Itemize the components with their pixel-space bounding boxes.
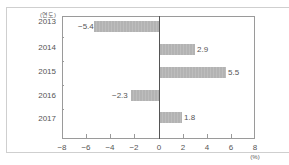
x-label: 0 xyxy=(149,143,169,152)
y-label-2014: 2014 xyxy=(16,43,56,52)
y-label-2017: 2017 xyxy=(16,114,56,123)
bar-2014 xyxy=(160,44,195,55)
value-label-2016: −2.3 xyxy=(112,90,128,101)
y-label-2013: 2013 xyxy=(16,17,56,26)
value-label-2014: 2.9 xyxy=(197,44,208,55)
x-axis-unit: (%) xyxy=(245,154,265,160)
value-label-2013: −5.4 xyxy=(78,21,94,32)
x-label: −8 xyxy=(52,143,72,152)
value-label-2015: 5.5 xyxy=(228,67,239,78)
x-tick xyxy=(86,134,87,138)
y-tick xyxy=(62,37,64,38)
x-tick xyxy=(231,134,232,138)
x-label: −4 xyxy=(100,143,120,152)
value-label-2017: 1.8 xyxy=(184,112,195,123)
y-tick xyxy=(62,85,64,86)
x-tick xyxy=(183,134,184,138)
y-tick xyxy=(62,109,64,110)
x-label: 8 xyxy=(245,143,265,152)
x-label: −6 xyxy=(76,143,96,152)
bar-2015 xyxy=(160,67,226,78)
x-label: 6 xyxy=(221,143,241,152)
y-tick xyxy=(62,61,64,62)
y-label-2016: 2016 xyxy=(16,91,56,100)
x-tick xyxy=(207,134,208,138)
bar-2013 xyxy=(94,21,159,32)
y-label-2015: 2015 xyxy=(16,67,56,76)
zero-axis-line xyxy=(159,16,160,139)
bar-2017 xyxy=(160,112,182,123)
x-tick xyxy=(110,134,111,138)
x-label: 4 xyxy=(197,143,217,152)
x-tick xyxy=(134,134,135,138)
x-label: −2 xyxy=(124,143,144,152)
x-label: 2 xyxy=(173,143,193,152)
bar-2016 xyxy=(131,90,159,101)
